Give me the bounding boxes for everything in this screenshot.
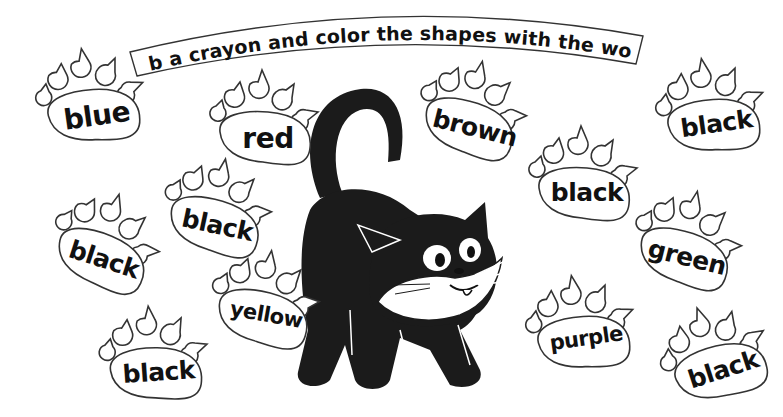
paw-word-label: red — [228, 122, 308, 155]
paw-black-6[interactable]: black — [636, 288, 783, 417]
paw-outline-icon — [636, 288, 783, 417]
paw-black-3[interactable]: black — [84, 302, 221, 417]
paw-black-5[interactable]: black — [638, 49, 782, 176]
paw-word-label: black — [547, 178, 627, 207]
paw-blue[interactable]: blue — [18, 39, 162, 166]
paw-purple[interactable]: purple — [508, 266, 652, 393]
paw-word-label: black — [118, 355, 200, 390]
